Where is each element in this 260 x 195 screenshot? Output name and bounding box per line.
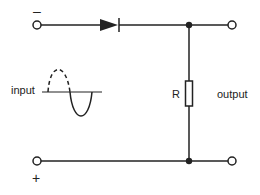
- waveform-negative-half-solid: [70, 92, 92, 116]
- waveform-positive-half-dashed: [48, 70, 70, 93]
- circuit-diagram: – R + output input: [0, 0, 260, 195]
- terminal-top-left: [33, 21, 41, 29]
- input-label: input: [11, 84, 35, 96]
- terminal-bottom-right: [228, 157, 236, 165]
- diode-icon: [100, 18, 119, 32]
- resistor-icon: [186, 81, 193, 106]
- junction-dot-bottom: [186, 158, 192, 164]
- output-label: output: [217, 88, 248, 100]
- resistor-label: R: [172, 88, 180, 100]
- polarity-plus-label: +: [32, 170, 40, 186]
- terminal-bottom-left: [33, 157, 41, 165]
- input-waveform-icon: [42, 70, 102, 117]
- terminal-top-right: [228, 21, 236, 29]
- polarity-minus-label: –: [33, 3, 41, 19]
